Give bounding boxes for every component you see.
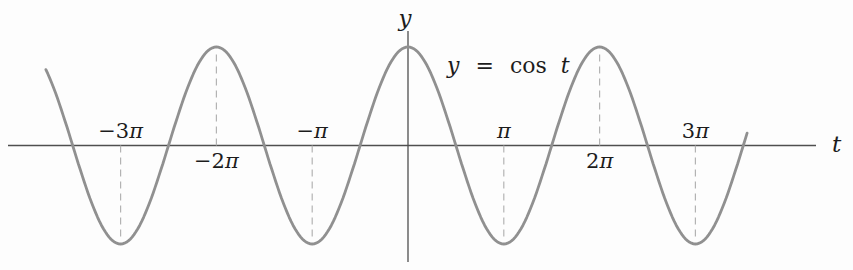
plot-canvas: −3π−2π−ππ2π3π y t y = cos t	[0, 0, 853, 270]
tick-label-pi-symbol: π	[128, 119, 144, 143]
tick-label-prefix: 2	[586, 149, 599, 173]
y-axis-label: y	[398, 5, 413, 31]
tick-label-2pi: 2π	[586, 149, 614, 173]
equation-function-name: cos	[510, 53, 547, 78]
equation-argument: t	[561, 53, 570, 78]
equation-equals-sign: =	[475, 53, 493, 78]
tick-label-prefix: 3	[682, 119, 695, 143]
tick-label-pi-symbol: π	[694, 119, 710, 143]
x-axis-label: t	[832, 131, 842, 157]
tick-label-prefix: −3	[98, 119, 129, 143]
tick-label-pi-symbol: π	[224, 149, 240, 173]
tick-label-pi-symbol: π	[598, 149, 614, 173]
equation-lhs: y	[446, 53, 460, 78]
tick-label-pi-symbol: π	[496, 119, 512, 143]
tick-label-prefix: −2	[194, 149, 225, 173]
tick-label-3pi: 3π	[682, 119, 710, 143]
tick-label-1pi: π	[496, 119, 512, 143]
cosine-figure: −3π−2π−ππ2π3π y t y = cos t	[0, 0, 853, 270]
tick-label--1pi: −π	[296, 119, 329, 143]
tick-label--2pi: −2π	[194, 149, 240, 173]
tick-label-prefix: −	[296, 119, 314, 143]
tick-label-pi-symbol: π	[313, 119, 329, 143]
equation-label: y = cos t	[446, 53, 570, 78]
tick-label--3pi: −3π	[98, 119, 144, 143]
